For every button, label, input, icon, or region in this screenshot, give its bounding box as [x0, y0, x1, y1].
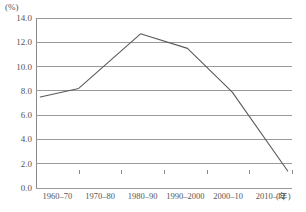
x-axis-tick: [36, 170, 37, 174]
y-axis-tick-label: 0.0: [0, 184, 32, 193]
x-axis-tick: [292, 170, 293, 174]
y-axis-unit-label: (%): [5, 2, 19, 12]
x-axis-tick: [79, 170, 80, 174]
series-line: [40, 34, 287, 171]
x-axis-tick: [164, 170, 165, 174]
line-chart: (%) 0.02.04.06.08.010.012.014.0 1960–701…: [0, 0, 306, 212]
y-axis-tick-label: 6.0: [0, 111, 32, 120]
x-axis-tick: [249, 170, 250, 174]
plot-area: [36, 18, 292, 188]
y-axis-tick-label: 8.0: [0, 87, 32, 96]
series-line-layer: [36, 18, 292, 188]
x-axis-tick: [207, 170, 208, 174]
x-axis-unit-label: (年): [276, 192, 291, 201]
x-axis-tick: [121, 170, 122, 174]
y-axis-tick-label: 2.0: [0, 160, 32, 169]
y-axis-tick-label: 12.0: [0, 38, 32, 47]
y-axis-tick-label: 14.0: [0, 14, 32, 23]
y-axis-tick-label: 10.0: [0, 63, 32, 72]
y-axis-tick-label: 4.0: [0, 135, 32, 144]
